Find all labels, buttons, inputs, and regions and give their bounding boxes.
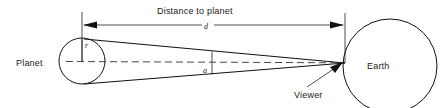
viewer-label: Viewer — [294, 90, 323, 100]
angular-size-diagram: Planet Earth Viewer Distance to planet d… — [0, 0, 441, 108]
dimension-arrow-left-icon — [83, 22, 97, 29]
earth-circle — [343, 19, 437, 108]
diagram-canvas: Planet Earth Viewer Distance to planet d… — [0, 0, 441, 108]
center-axis-dashed-line — [66, 62, 344, 63]
dimension-arrow-right-icon — [330, 22, 344, 29]
distance-title-label: Distance to planet — [157, 6, 233, 16]
earth-label: Earth — [367, 61, 390, 71]
sight-line-upper — [84, 39, 345, 63]
sight-line-lower — [84, 63, 345, 84]
radius-symbol-label: r — [85, 41, 89, 50]
distance-symbol-label: d — [204, 22, 209, 31]
planet-label: Planet — [16, 58, 43, 68]
angle-symbol-label: a — [203, 66, 207, 75]
